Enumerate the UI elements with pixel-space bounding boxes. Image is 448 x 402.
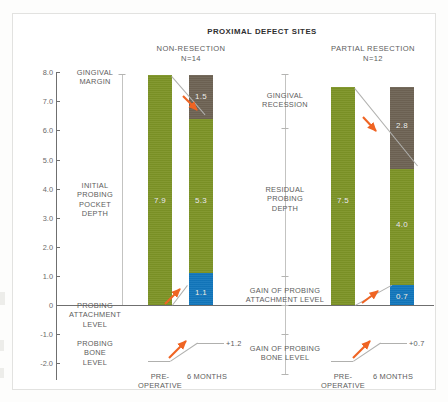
bone-gain-lead-left [197,343,224,344]
bar-partial-resection-6months [390,87,414,305]
y-tick-6 [56,130,60,131]
arrow-recession-partial-resection [363,117,376,131]
y-tick-label-7: 7.0 [43,97,53,106]
value-label-non-resection-preoperative: 7.9 [154,196,166,205]
label-initial-probing-pocket-depth: INITIAL PROBING POCKET DEPTH [77,181,113,219]
bone-gain-lead-right [380,343,407,344]
label-probing-bone-level: PROBING BONE LEVEL [77,339,113,367]
y-tick-label-8: 8.0 [43,68,53,77]
bar-non-resection-preoperative [148,75,172,305]
y-tick-label-6: 6.0 [43,126,53,135]
bone-gain-slant-right [353,343,381,362]
y-tick-label-4: 4.0 [43,185,53,194]
value-label-partial-resection-preoperative: 7.5 [337,196,349,205]
value-label-partial-resection-residual: 4.0 [396,220,408,229]
y-tick-neg2 [56,363,60,364]
center-cap-bone-top [282,334,289,335]
chart-title: PROXIMAL DEFECT SITES [207,27,317,36]
y-tick-2 [56,247,60,248]
segment-initial-probing-pocket-depth [148,75,172,305]
value-label-partial-resection-recession: 2.8 [396,121,408,130]
y-tick-7 [56,101,60,102]
value-label-non-resection-recession: 1.5 [195,92,207,101]
group-n-partial-resection: N=12 [363,54,383,64]
y-tick-5 [56,160,60,161]
y-tick-label-3: 3.0 [43,214,53,223]
category-label-non-resection-preoperative: PRE- OPERATIVE [138,372,182,391]
initial-ppd-measure-line [122,74,123,305]
group-header-partial-resection: PARTIAL RESECTION [331,44,415,54]
plot-area: PROXIMAL DEFECT SITES NON-RESECTION N=14… [0,0,448,402]
label-gingival-margin: GINGIVAL MARGIN [77,68,113,87]
bone-gain-value-non-resection: +1.2 [226,339,242,348]
bone-gain-baseline-left [148,361,170,362]
center-cap-baseline [282,305,289,306]
center-cap-gingival-margin [282,74,289,75]
y-tick-label-neg1: -1.0 [40,330,53,339]
y-tick-label-neg2: -2.0 [40,359,53,368]
label-gain-of-probing-attachment-level: GAIN OF PROBING ATTACHMENT LEVEL [246,286,324,305]
y-tick-1 [56,276,60,277]
value-label-non-resection-gain: 1.1 [195,288,207,297]
initial-ppd-measure-cap-top [119,74,126,75]
label-probing-attachment-level: PROBING ATTACHMENT LEVEL [69,301,121,329]
label-residual-probing-depth: RESIDUAL PROBING DEPTH [266,185,305,213]
y-tick-neg1 [56,334,60,335]
category-label-partial-resection-6months: 6 MONTHS [373,372,413,381]
y-tick-8 [56,72,60,73]
center-cap-bone-bottom [282,374,289,375]
category-label-partial-resection-preoperative: PRE- OPERATIVE [321,372,365,391]
center-measure-line [285,74,286,374]
y-tick-label-2: 2.0 [43,243,53,252]
y-tick-label-0: 0 [49,301,53,310]
y-tick-label-5: 5.0 [43,156,53,165]
bone-gain-slant-left [170,343,198,362]
center-cap-recession-bottom [282,128,289,129]
label-gain-of-probing-bone-level: GAIN OF PROBING BONE LEVEL [250,344,320,363]
y-tick-4 [56,189,60,190]
bone-gain-value-partial-resection: +0.7 [409,339,425,348]
value-label-non-resection-residual: 5.3 [195,196,207,205]
label-gingival-recession: GINGIVAL RECESSION [262,91,308,110]
group-n-non-resection: N=14 [181,54,201,64]
bone-gain-baseline-right [331,361,353,362]
center-cap-residual-bottom [282,276,289,277]
value-label-partial-resection-gain: 0.7 [396,292,408,301]
y-tick-label-1: 1.0 [43,272,53,281]
connector-attachment-gain-non-resection [172,285,188,306]
connector-attachment-gain-partial-resection [355,285,392,306]
category-label-non-resection-6months: 6 MONTHS [187,372,227,381]
group-header-non-resection: NON-RESECTION [157,44,226,54]
y-tick-3 [56,218,60,219]
chart-root: PROXIMAL DEFECT SITES NON-RESECTION N=14… [0,0,448,402]
